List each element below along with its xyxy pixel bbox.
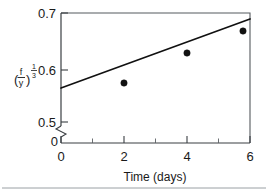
y-tick-label-1: 0.6: [38, 63, 56, 78]
y-origin-label: 0: [51, 134, 58, 149]
y-axis-title-exponent-denominator: 3: [32, 72, 36, 79]
y-axis-title: ( f y ) 1 3: [14, 63, 37, 88]
y-axis-title-numerator: f: [20, 67, 23, 77]
data-point: [184, 50, 190, 56]
y-axis-title-denominator: y: [19, 78, 24, 88]
x-tick-label-2: 4: [183, 149, 190, 164]
y-axis-ticks: [61, 13, 68, 122]
chart-figure: 0.7 0.6 0.5 0 0 2 4 6: [0, 0, 268, 190]
fit-line: [61, 19, 250, 88]
chart-canvas: 0.7 0.6 0.5 0 0 2 4 6: [0, 0, 268, 190]
data-point: [240, 28, 246, 34]
x-axis-tick-labels: 0 2 4 6: [57, 149, 253, 164]
y-axis-tick-labels: 0.7 0.6 0.5 0: [38, 6, 58, 149]
y-axis-title-close-paren: ): [26, 72, 30, 87]
data-point: [121, 80, 127, 86]
y-axis: [56, 13, 66, 143]
y-tick-label-0: 0.7: [38, 6, 56, 21]
x-axis-title: Time (days): [124, 170, 187, 184]
x-tick-label-3: 6: [246, 149, 253, 164]
y-axis-title-exponent-numerator: 1: [32, 63, 36, 70]
x-tick-label-0: 0: [57, 149, 64, 164]
y-tick-label-2: 0.5: [38, 115, 56, 130]
x-axis-minor-ticks: [93, 139, 219, 144]
data-points: [121, 28, 246, 86]
x-tick-label-1: 2: [120, 149, 127, 164]
